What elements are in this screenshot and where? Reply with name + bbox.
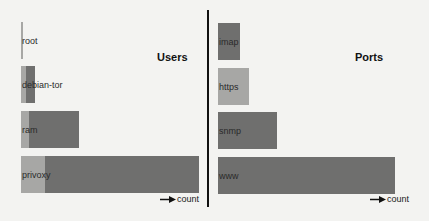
bar-debian-tor: debian-tor [21, 66, 35, 103]
bar-imap: imap [218, 23, 240, 60]
bar-label: ram [22, 125, 38, 135]
bar-label: privoxy [22, 170, 51, 180]
bar-ram: ram [21, 111, 79, 148]
bar-label: https [219, 82, 239, 92]
axis-label-text: count [387, 194, 409, 204]
chart-title-ports: Ports [355, 51, 383, 63]
x-axis-label-ports: count [370, 194, 409, 204]
bar-https: https [218, 68, 249, 105]
x-axis-label-users: count [160, 194, 199, 204]
bar-label: imap [219, 37, 239, 47]
bar-label: snmp [219, 126, 241, 136]
bar-label: debian-tor [22, 80, 63, 90]
bar-segment-dark [218, 157, 395, 194]
chart-title-users: Users [157, 51, 188, 63]
bar-privoxy: privoxy [21, 156, 199, 193]
bar-www: www [218, 157, 395, 194]
users-chart-panel: root debian-tor ram privoxy Users count [0, 0, 207, 221]
arrow-right-icon [160, 195, 176, 204]
bar-segment-dark [45, 156, 199, 193]
ports-chart-panel: imap https snmp www Ports count [209, 0, 429, 221]
bar-label: root [22, 36, 38, 46]
bar-snmp: snmp [218, 112, 277, 149]
bar-root: root [21, 22, 23, 59]
bar-label: www [219, 171, 239, 181]
arrow-right-icon [370, 195, 386, 204]
axis-label-text: count [177, 194, 199, 204]
